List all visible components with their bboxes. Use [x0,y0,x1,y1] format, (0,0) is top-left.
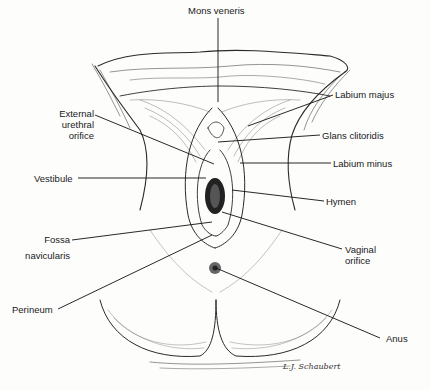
left-thigh-edge [95,66,147,210]
leader-fossa-navicularis [72,222,212,240]
leader-external-urethral-orifice [95,115,214,164]
left-buttock [100,300,216,357]
label-hymen: Hymen [326,196,356,207]
label-vestibule: Vestibule [34,173,73,184]
mons-top-edge [98,50,348,72]
label-perineum: Perineum [12,304,53,315]
right-buttock [216,300,340,357]
leader-glans-clitoridis [218,135,320,142]
artist-signature: L.J. Schaubert [283,362,340,371]
leader-perineum [58,235,212,309]
label-glans-clitoridis: Glans clitoridis [322,130,384,141]
mons-lower-edge [120,86,330,96]
label-labium-majus: Labium majus [335,89,394,100]
leader-vaginal-orifice [222,212,342,249]
label-fossa-navicularis: Fossa navicularis [10,234,70,261]
label-vaginal-orifice: Vaginal orifice [345,244,376,266]
label-labium-minus: Labium minus [333,158,392,169]
label-anus: Anus [386,333,408,344]
anatomy-figure: Mons veneris Labium majus External ureth… [0,0,430,390]
anatomy-drawing [0,0,430,390]
label-external-urethral-orifice: External urethral orifice [48,108,94,141]
leader-anus [216,268,380,338]
leader-hymen [232,190,324,201]
label-mons-veneris: Mons veneris [188,5,245,16]
right-labium-majus [215,108,245,248]
